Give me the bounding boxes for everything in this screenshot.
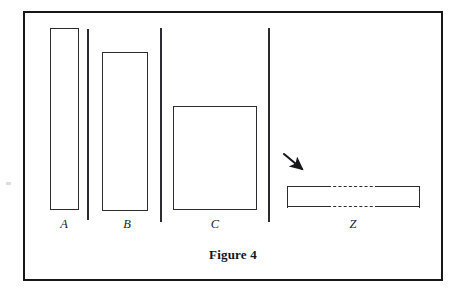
bar-z-bottom-solid-right: [378, 206, 420, 207]
bar-z-top-solid-right: [378, 186, 420, 187]
divider-1: [87, 29, 89, 220]
figure-caption: Figure 4: [23, 247, 443, 263]
bar-b: [102, 52, 148, 211]
figure-root: A B C Z Figure 4: [0, 0, 466, 294]
bar-label-b: B: [115, 218, 139, 231]
divider-3: [268, 28, 270, 222]
bar-label-z: Z: [341, 218, 365, 231]
bar-label-a: A: [52, 218, 76, 231]
bar-z: [287, 186, 420, 208]
scan-artifact-speck: [6, 182, 11, 185]
bar-a: [50, 28, 79, 210]
bar-label-c: C: [203, 218, 227, 231]
figure-frame: A B C Z: [23, 11, 443, 281]
bar-z-bottom-solid-left: [287, 206, 328, 207]
bar-z-top-dashed-mid: [328, 186, 378, 187]
bar-z-top-solid-left: [287, 186, 328, 187]
bar-c: [173, 106, 257, 210]
bar-z-outline: [287, 186, 420, 208]
divider-2: [160, 28, 162, 222]
bar-z-bottom-dashed-mid: [328, 206, 378, 207]
annotation-arrow-icon: [280, 150, 314, 180]
